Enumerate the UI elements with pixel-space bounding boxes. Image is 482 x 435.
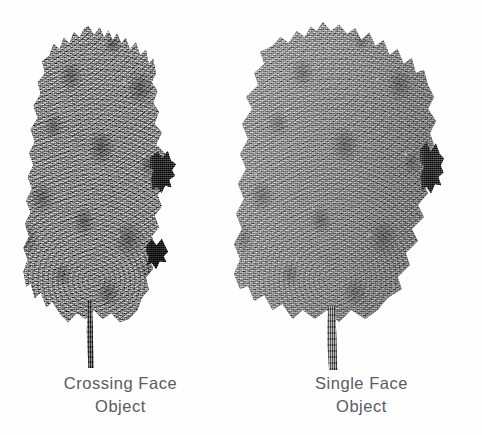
tree-illustration-crossing-face [0, 0, 241, 380]
caption-crossing-face: Crossing Face Object [0, 372, 241, 418]
caption-single-face-line1: Single Face [241, 372, 482, 395]
caption-crossing-face-line1: Crossing Face [0, 372, 241, 395]
tree-panel-crossing-face: Crossing Face Object [0, 0, 241, 435]
caption-single-face-line2: Object [241, 395, 482, 418]
caption-single-face: Single Face Object [241, 372, 482, 418]
tree-canopy-crossing-face [22, 26, 166, 322]
caption-crossing-face-line2: Object [0, 395, 241, 418]
canopy-highlight-specks-crossing-face [22, 26, 166, 322]
tree-comparison-figure: Crossing Face Object Single Face Object [0, 0, 482, 435]
